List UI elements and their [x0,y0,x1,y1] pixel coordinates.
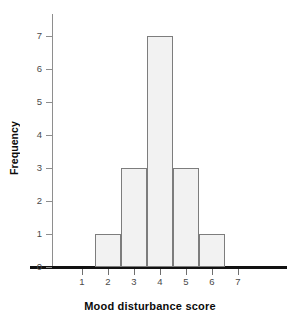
x-tick-1 [82,269,83,275]
x-tick-7 [238,269,239,275]
x-tick-4 [160,269,161,275]
bar-score-3 [121,168,147,267]
y-tick-5 [46,102,52,103]
x-tick-label-6: 6 [204,277,220,287]
y-tick-2 [46,201,52,202]
y-tick-label-3: 3 [28,163,42,173]
x-axis-title: Mood disturbance score [0,300,300,312]
y-axis-line [52,14,53,267]
y-tick-4 [46,135,52,136]
y-tick-3 [46,168,52,169]
bar-score-4 [147,36,173,267]
bar-score-6 [199,234,225,267]
x-tick-label-1: 1 [74,277,90,287]
y-tick-0 [46,267,52,268]
y-tick-7 [46,36,52,37]
x-tick-5 [186,269,187,275]
y-tick-label-5: 5 [28,97,42,107]
y-tick-6 [46,69,52,70]
bar-score-5 [173,168,199,267]
y-tick-label-6: 6 [28,64,42,74]
y-tick-label-1: 1 [28,229,42,239]
plot-area: 0 1 2 3 4 5 6 7 1 2 3 4 5 6 7 [0,0,300,321]
y-tick-label-7: 7 [28,31,42,41]
y-tick-label-0: 0 [28,262,42,272]
x-tick-2 [108,269,109,275]
y-tick-label-2: 2 [28,196,42,206]
x-tick-label-5: 5 [178,277,194,287]
bar-score-2 [95,234,121,267]
x-tick-3 [134,269,135,275]
x-tick-label-3: 3 [126,277,142,287]
x-tick-6 [212,269,213,275]
x-tick-label-7: 7 [230,277,246,287]
histogram-figure: Frequency 0 1 2 3 4 5 6 7 1 [0,0,300,321]
x-tick-label-4: 4 [152,277,168,287]
x-tick-label-2: 2 [100,277,116,287]
y-tick-1 [46,234,52,235]
y-tick-label-4: 4 [28,130,42,140]
